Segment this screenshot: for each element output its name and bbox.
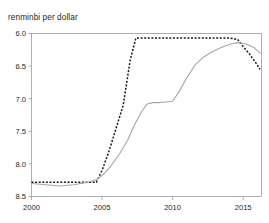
y-tick-label-3: 7.5 bbox=[15, 127, 26, 136]
series-line-nominal-dashed bbox=[32, 38, 261, 182]
y-tick-label-5: 8.5 bbox=[15, 192, 26, 201]
series-line-real-solid bbox=[32, 43, 261, 186]
y-tick-label-2: 7.0 bbox=[15, 95, 26, 104]
chart-plot-area: 6.06.57.07.58.08.52000200520102015 bbox=[0, 0, 269, 223]
chart-container: renminbi per dollar 6.06.57.07.58.08.520… bbox=[0, 0, 269, 223]
x-tick-label-1: 2005 bbox=[94, 203, 111, 212]
x-tick-label-0: 2000 bbox=[23, 203, 40, 212]
x-tick-label-2: 2010 bbox=[164, 203, 181, 212]
plot-frame bbox=[32, 34, 262, 197]
y-tick-label-1: 6.5 bbox=[15, 62, 26, 71]
y-tick-label-0: 6.0 bbox=[15, 29, 26, 38]
x-tick-label-3: 2015 bbox=[235, 203, 252, 212]
y-tick-label-4: 8.0 bbox=[15, 160, 26, 169]
